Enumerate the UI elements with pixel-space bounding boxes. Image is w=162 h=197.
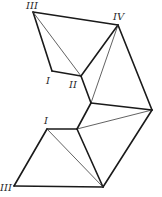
diagonal-I-bottom xyxy=(47,129,103,187)
label-I-bottom: I xyxy=(43,115,49,126)
diagonal-IV-mid xyxy=(91,25,118,103)
edge-II-IV xyxy=(81,25,118,76)
label-IV-top: IV xyxy=(112,11,126,22)
edge-mid-lowermid xyxy=(77,103,91,129)
diagonal-right-lowermid xyxy=(77,110,152,129)
edge-right-bottom xyxy=(103,110,152,187)
label-II-top: II xyxy=(68,79,78,90)
label-III-top: III xyxy=(25,0,39,11)
edge-III-IV xyxy=(33,12,118,25)
edge-III-bottom xyxy=(14,186,103,187)
label-I-top: I xyxy=(45,75,51,86)
edge-II-mid xyxy=(81,76,91,103)
diagonal-III-II xyxy=(33,12,81,76)
edge-I-II xyxy=(52,71,81,76)
edge-lowermid-bottom xyxy=(77,129,103,187)
folded-net-diagram: III IV I II I III xyxy=(0,0,162,197)
edge-I-III-bottom xyxy=(14,129,47,186)
edge-III-I xyxy=(33,12,52,71)
edge-mid-right xyxy=(91,103,152,110)
edge-IV-right xyxy=(118,25,152,110)
label-III-bottom: III xyxy=(0,182,13,193)
